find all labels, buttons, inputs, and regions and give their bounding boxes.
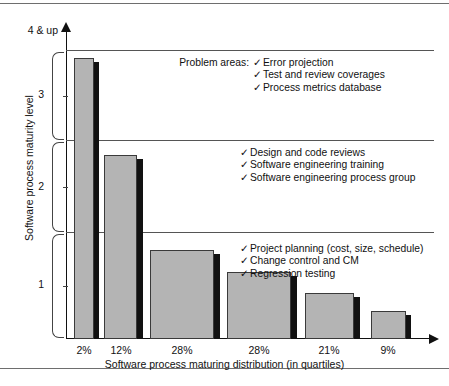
check-icon: ✓ <box>240 243 250 255</box>
check-icon: ✓ <box>253 57 263 69</box>
brace-level-2 <box>52 142 64 232</box>
annotation-item-text: Error projection <box>263 57 333 68</box>
gridline-level-3 <box>66 140 434 141</box>
x-tick-label-2: 12% <box>110 344 131 356</box>
check-icon: ✓ <box>240 255 250 267</box>
check-icon: ✓ <box>240 147 250 159</box>
x-tick-label-4: 28% <box>248 344 269 356</box>
annotation-item: ✓Software engineering training <box>240 159 415 171</box>
annotation-item: ✓Software engineering process group <box>240 172 415 184</box>
y-axis-arrow-icon <box>61 22 71 32</box>
bar-shadow-2 <box>136 159 143 339</box>
annotation-item: ✓Process metrics database <box>253 82 385 94</box>
bar-2 <box>104 155 137 339</box>
x-tick-label-5: 21% <box>318 344 339 356</box>
annotation-block-level-2: ✓Design and code reviews ✓Software engin… <box>240 147 415 184</box>
bar-shadow-3 <box>213 254 220 339</box>
annotation-item: ✓Design and code reviews <box>240 147 415 159</box>
bar-3 <box>150 250 214 339</box>
bar-4 <box>227 272 291 339</box>
check-icon: ✓ <box>253 69 263 81</box>
annotation-block-level-1: ✓Project planning (cost, size, schedule)… <box>240 243 423 280</box>
check-icon: ✓ <box>240 268 250 280</box>
bar-shadow-4 <box>290 276 297 339</box>
annotation-lead-problem-areas: Problem areas: <box>179 57 253 69</box>
y-tick-label-3: 3 <box>0 88 44 100</box>
x-tick-label-3: 28% <box>171 344 192 356</box>
annotation-item-text: Software engineering training <box>250 159 384 170</box>
annotation-item-text: Change control and CM <box>250 255 359 266</box>
y-tick-label-1: 1 <box>0 278 44 290</box>
figure-top-rule <box>0 3 449 4</box>
y-axis-line <box>66 30 67 339</box>
check-icon: ✓ <box>253 82 263 94</box>
annotation-item: ✓Project planning (cost, size, schedule) <box>240 243 423 255</box>
y-axis-title: Software process maturity level <box>23 53 35 283</box>
annotation-item: ✓Test and review coverages <box>253 69 385 81</box>
bar-shadow-5 <box>353 297 360 339</box>
check-icon: ✓ <box>240 159 250 171</box>
x-tick-label-1: 2% <box>76 344 91 356</box>
annotation-item-text: Software engineering process group <box>250 172 415 183</box>
bar-1 <box>74 58 94 339</box>
annotation-item-text: Project planning (cost, size, schedule) <box>250 243 423 254</box>
x-axis-arrow-icon <box>429 334 439 344</box>
gridline-level-4 <box>66 50 434 51</box>
bar-5 <box>305 293 354 339</box>
check-icon: ✓ <box>240 172 250 184</box>
annotation-item: ✓Regression testing <box>240 268 423 280</box>
x-axis-title: Software process maturing distribution (… <box>0 358 449 370</box>
annotation-block-level-3: Problem areas: ✓Error projection ✓Test a… <box>253 57 385 94</box>
brace-level-1 <box>52 234 64 338</box>
brace-level-3 <box>52 52 64 140</box>
y-tick-label-4up: 4 & up <box>0 24 58 36</box>
bar-6 <box>371 311 406 339</box>
x-tick-label-6: 9% <box>380 344 395 356</box>
annotation-item: ✓Error projection <box>253 57 385 69</box>
annotation-item: ✓Change control and CM <box>240 255 423 267</box>
chart-figure: 4 & up 3 2 1 Software process maturity l… <box>0 0 449 386</box>
annotation-item-text: Regression testing <box>250 268 335 279</box>
annotation-item-text: Process metrics database <box>263 82 381 93</box>
y-tick-label-2: 2 <box>0 180 44 192</box>
annotation-item-text: Design and code reviews <box>250 147 365 158</box>
annotation-item-text: Test and review coverages <box>263 69 385 80</box>
